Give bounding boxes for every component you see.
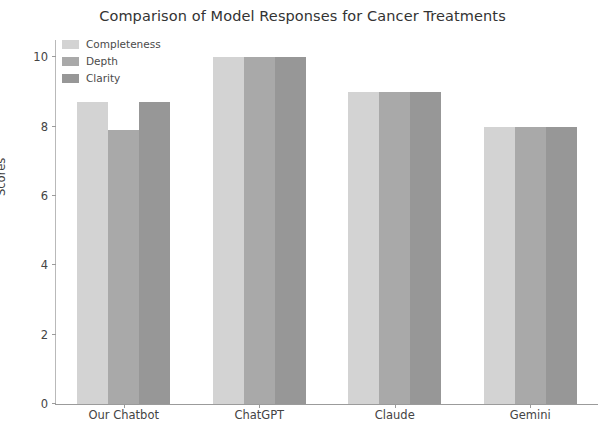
legend-swatch-icon	[62, 74, 79, 83]
y-tick-label: 2	[41, 327, 48, 343]
y-tick-label: 6	[41, 188, 48, 204]
legend-item-clarity[interactable]: Clarity	[62, 70, 192, 86]
legend-swatch-icon	[62, 57, 79, 66]
y-tick-label: 8	[41, 119, 48, 135]
y-tick-label: 4	[41, 257, 48, 273]
plot-area	[56, 40, 598, 404]
chart-title: Comparison of Model Responses for Cancer…	[0, 8, 605, 24]
x-axis-line	[55, 404, 598, 405]
bar	[213, 57, 244, 404]
x-tick-label: Our Chatbot	[89, 408, 159, 422]
legend-label: Depth	[86, 55, 118, 67]
legend-label: Clarity	[86, 72, 120, 84]
legend-swatch-icon	[62, 40, 79, 49]
x-tick-label: Claude	[375, 408, 415, 422]
x-tick-label: Gemini	[510, 408, 551, 422]
bar	[348, 92, 379, 404]
bar	[546, 127, 577, 404]
bar	[275, 57, 306, 404]
bar	[244, 57, 275, 404]
legend-item-completeness[interactable]: Completeness	[62, 36, 192, 52]
y-tick-label: 10	[33, 49, 48, 65]
bar	[379, 92, 410, 404]
y-tick-label: 0	[41, 396, 48, 412]
legend: CompletenessDepthClarity	[62, 36, 192, 87]
bar	[77, 102, 108, 404]
x-tick-label: ChatGPT	[234, 408, 284, 422]
bar	[108, 130, 139, 404]
bar	[410, 92, 441, 404]
bar	[484, 127, 515, 404]
bar	[515, 127, 546, 404]
bar	[139, 102, 170, 404]
bar-chart-figure: Comparison of Model Responses for Cancer…	[0, 0, 605, 426]
legend-item-depth[interactable]: Depth	[62, 53, 192, 69]
legend-label: Completeness	[86, 38, 161, 50]
y-axis-label: Scores	[0, 158, 8, 196]
